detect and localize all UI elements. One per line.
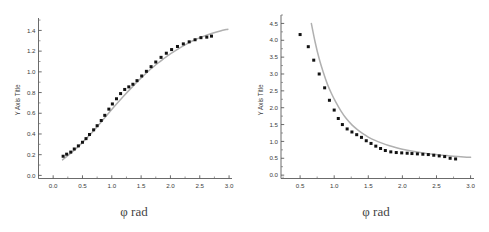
data-point-marker[interactable] (100, 119, 103, 122)
y-tick-label: 1.2 (27, 47, 36, 54)
y-axis-title: Y Axis Title (257, 84, 264, 116)
data-point-marker[interactable] (312, 59, 315, 62)
data-point-marker[interactable] (154, 61, 157, 64)
data-point-marker[interactable] (160, 56, 163, 59)
data-point-marker[interactable] (127, 85, 130, 88)
data-point-marker[interactable] (400, 151, 403, 154)
data-point-marker[interactable] (323, 86, 326, 89)
y-tick-label: 0.2 (27, 151, 36, 158)
data-point-marker[interactable] (370, 142, 373, 145)
data-point-marker[interactable] (176, 45, 179, 48)
data-point-marker[interactable] (150, 65, 153, 68)
data-point-marker[interactable] (438, 154, 441, 157)
x-tick-label: 1.5 (137, 182, 146, 189)
data-point-marker[interactable] (103, 114, 106, 117)
x-tick-label: 0.5 (296, 182, 305, 189)
data-point-marker[interactable] (379, 147, 382, 150)
data-point-marker[interactable] (355, 133, 358, 136)
data-point-marker[interactable] (416, 152, 419, 155)
data-point-marker[interactable] (96, 124, 99, 127)
x-tick-label: 1.5 (364, 182, 373, 189)
data-point-marker[interactable] (410, 152, 413, 155)
data-point-marker[interactable] (454, 157, 457, 160)
data-point-marker[interactable] (182, 42, 185, 45)
x-tick-label: 2.5 (195, 182, 204, 189)
data-point-marker[interactable] (421, 153, 424, 156)
x-tick-label: 2.0 (398, 182, 407, 189)
y-tick-label: 0.6 (27, 109, 36, 116)
data-point-marker[interactable] (194, 38, 197, 41)
data-point-marker[interactable] (145, 70, 148, 73)
y-tick-label: 2.5 (269, 87, 278, 94)
data-point-marker[interactable] (384, 149, 387, 152)
y-tick-label: 4.5 (269, 20, 278, 27)
data-point-marker[interactable] (406, 152, 409, 155)
data-point-marker[interactable] (449, 157, 452, 160)
data-point-marker[interactable] (389, 150, 392, 153)
figure-container: 0.00.20.40.60.81.01.21.40.00.51.01.52.02… (0, 0, 489, 232)
data-point-marker[interactable] (65, 153, 68, 156)
data-point-marker[interactable] (432, 154, 435, 157)
chart-left-plot: 0.00.20.40.60.81.01.21.40.00.51.01.52.02… (14, 18, 234, 219)
x-axis-title: φ rad (362, 204, 390, 219)
data-point-marker[interactable] (395, 151, 398, 154)
data-point-marker[interactable] (318, 72, 321, 75)
data-point-marker[interactable] (210, 35, 213, 38)
fit-curve (311, 23, 470, 157)
data-point-marker[interactable] (88, 133, 91, 136)
data-point-marker[interactable] (77, 144, 80, 147)
y-tick-label: 1.4 (27, 27, 36, 34)
data-point-marker[interactable] (328, 99, 331, 102)
y-tick-label: 0.4 (27, 130, 36, 137)
data-point-marker[interactable] (81, 141, 84, 144)
data-point-marker[interactable] (299, 33, 302, 36)
data-point-marker[interactable] (73, 147, 76, 150)
x-tick-label: 0.5 (78, 182, 87, 189)
chart-panel-left[interactable]: 0.00.20.40.60.81.01.21.40.00.51.01.52.02… (0, 0, 245, 232)
chart-panel-right[interactable]: 0.00.51.01.52.02.53.03.54.04.50.51.01.52… (245, 0, 489, 232)
x-tick-label: 3.0 (225, 182, 234, 189)
x-tick-label: 1.0 (107, 182, 116, 189)
y-tick-label: 0.0 (269, 171, 278, 178)
data-point-marker[interactable] (119, 92, 122, 95)
data-point-marker[interactable] (165, 52, 168, 55)
data-point-marker[interactable] (337, 117, 340, 120)
data-point-marker[interactable] (443, 155, 446, 158)
data-point-marker[interactable] (92, 128, 95, 131)
data-point-marker[interactable] (374, 145, 377, 148)
data-point-marker[interactable] (307, 45, 310, 48)
chart-left-svg[interactable]: 0.00.20.40.60.81.01.21.40.00.51.01.52.02… (0, 0, 245, 232)
data-point-marker[interactable] (427, 153, 430, 156)
data-point-marker[interactable] (170, 48, 173, 51)
data-point-marker[interactable] (199, 36, 202, 39)
data-point-marker[interactable] (341, 123, 344, 126)
data-point-marker[interactable] (136, 79, 139, 82)
data-point-marker[interactable] (350, 130, 353, 133)
data-point-marker[interactable] (140, 74, 143, 77)
x-tick-label: 3.0 (466, 182, 475, 189)
y-tick-label: 3.5 (269, 53, 278, 60)
data-point-marker[interactable] (346, 127, 349, 130)
x-tick-label: 1.0 (330, 182, 339, 189)
data-point-marker[interactable] (85, 137, 88, 140)
y-tick-label: 1.0 (27, 68, 36, 75)
data-point-marker[interactable] (333, 109, 336, 112)
data-point-marker[interactable] (69, 151, 72, 154)
data-point-marker[interactable] (365, 139, 368, 142)
y-tick-label: 4.0 (269, 36, 278, 43)
y-tick-label: 0.5 (269, 154, 278, 161)
data-point-marker[interactable] (131, 83, 134, 86)
data-point-marker[interactable] (188, 40, 191, 43)
x-tick-label: 2.0 (166, 182, 175, 189)
chart-right-plot: 0.00.51.01.52.02.53.03.54.04.50.51.01.52… (257, 15, 476, 219)
chart-right-svg[interactable]: 0.00.51.01.52.02.53.03.54.04.50.51.01.52… (245, 0, 489, 232)
data-point-marker[interactable] (205, 36, 208, 39)
fit-curve (63, 29, 228, 160)
data-point-marker[interactable] (62, 155, 65, 158)
data-point-marker[interactable] (123, 88, 126, 91)
data-point-marker[interactable] (111, 102, 114, 105)
data-point-marker[interactable] (115, 97, 118, 100)
y-tick-label: 2.0 (269, 104, 278, 111)
data-point-marker[interactable] (360, 136, 363, 139)
data-point-marker[interactable] (107, 108, 110, 111)
